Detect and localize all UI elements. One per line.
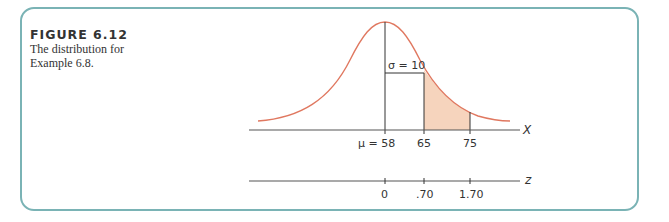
z-axis-label: z xyxy=(524,173,532,187)
x-tick-75: 75 xyxy=(463,137,477,150)
z-label-0: 0 xyxy=(381,188,388,201)
x-tick-mean: μ = 58 xyxy=(358,137,395,150)
z-label-70: .70 xyxy=(416,188,434,201)
normal-distribution-chart: σ = 10 X μ = 58 65 75 z 0 .70 1.70 xyxy=(0,0,669,222)
x-axis-label: X xyxy=(522,123,532,137)
z-label-170: 1.70 xyxy=(459,188,484,201)
sigma-label: σ = 10 xyxy=(388,59,425,72)
x-tick-65: 65 xyxy=(417,137,431,150)
normal-curve xyxy=(258,22,510,121)
